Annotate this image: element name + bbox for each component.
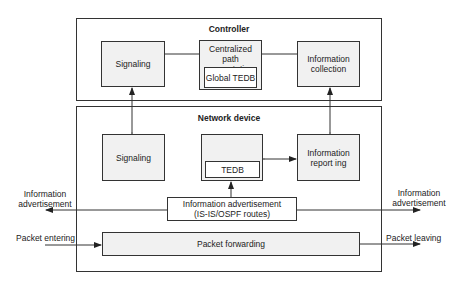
left-adv-line1: Information (14, 189, 76, 199)
global-tedb-box: Global TEDB (204, 67, 257, 88)
left-adv-line2: advertisement (14, 199, 76, 209)
controller-signaling-box: Signaling (101, 41, 165, 87)
global-tedb-label: Global TEDB (206, 73, 255, 83)
packet-entering-label: Packet entering (16, 233, 75, 243)
right-adv-line2: advertisement (384, 198, 454, 208)
info-reporting-box: Information report ing (297, 134, 360, 181)
tedb-label: TEDB (221, 165, 244, 175)
tedb-box: TEDB (205, 161, 260, 178)
left-adv-label: Information advertisement (14, 189, 76, 209)
packet-leaving-label: Packet leaving (386, 233, 441, 243)
packet-forwarding-box: Packet forwarding (102, 232, 360, 256)
info-advertisement-line1: Information advertisement (183, 199, 281, 209)
info-reporting-label: Information report ing (303, 148, 355, 168)
info-collection-box: Information collection (297, 41, 360, 87)
info-collection-label: Information collection (301, 54, 356, 74)
right-adv-line1: Information (384, 188, 454, 198)
packet-forwarding-label: Packet forwarding (197, 239, 265, 249)
device-signaling-box: Signaling (102, 134, 165, 181)
info-advertisement-box: Information advertisement (IS-IS/OSPF ro… (167, 197, 297, 221)
info-advertisement-line2: (IS-IS/OSPF routes) (194, 209, 270, 219)
right-adv-label: Information advertisement (384, 188, 454, 208)
device-signaling-label: Signaling (116, 153, 151, 163)
controller-signaling-label: Signaling (116, 59, 151, 69)
